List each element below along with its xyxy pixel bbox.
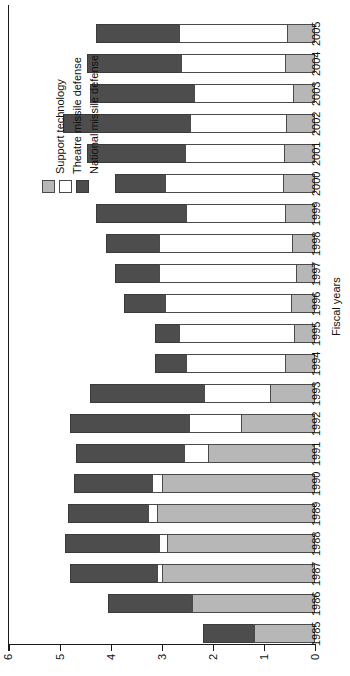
- category-axis-label: 2005: [310, 0, 322, 46]
- bar-row: [203, 624, 315, 643]
- value-axis-tick-label: 5: [54, 646, 66, 668]
- bar-row: [113, 264, 315, 283]
- bar-segment-support: [167, 534, 315, 553]
- value-axis-tick-label: 6: [2, 646, 14, 668]
- bar-row: [113, 174, 315, 193]
- bar-segment-national: [96, 24, 179, 43]
- bar-segment-theatre: [179, 24, 288, 43]
- bar-segment-national: [108, 594, 192, 613]
- bar-row: [122, 294, 315, 313]
- bar-segment-theatre: [185, 144, 285, 163]
- bar-row: [153, 354, 315, 373]
- bar-segment-theatre: [179, 324, 295, 343]
- bar-segment-theatre: [159, 264, 297, 283]
- value-axis-tick-label: 2: [207, 646, 219, 668]
- bar-segment-theatre: [186, 204, 286, 223]
- bar-segment-national: [115, 264, 160, 283]
- legend-swatch: [76, 180, 89, 193]
- bar-segment-national: [124, 294, 166, 313]
- bar-segment-national: [70, 414, 190, 433]
- bar-segment-national: [203, 624, 254, 643]
- bar-segment-national: [155, 324, 180, 343]
- bar-segment-national: [68, 504, 150, 523]
- bar-segment-support: [241, 414, 315, 433]
- bar-segment-theatre: [184, 444, 209, 463]
- value-axis-tick-label: 4: [105, 646, 117, 668]
- bar-segment-support: [162, 474, 315, 493]
- bar-segment-national: [96, 204, 187, 223]
- bar-segment-theatre: [165, 174, 284, 193]
- bar-segment-support: [208, 444, 315, 463]
- bar-row: [88, 384, 315, 403]
- bar-row: [72, 474, 315, 493]
- bar-row: [85, 144, 315, 163]
- bar-segment-support: [157, 504, 315, 523]
- bar-row: [153, 324, 315, 343]
- bar-segment-theatre: [204, 384, 271, 403]
- bar-segment-national: [115, 174, 166, 193]
- bar-segment-national: [87, 54, 182, 73]
- bar-row: [68, 564, 315, 583]
- bar-segment-theatre: [189, 414, 242, 433]
- bar-segment-theatre: [186, 354, 286, 373]
- bar-segment-support: [254, 624, 315, 643]
- bar-row: [74, 444, 315, 463]
- bar-segment-support: [162, 564, 315, 583]
- bar-row: [66, 504, 315, 523]
- bar-segment-national: [155, 354, 187, 373]
- bar-segment-national: [87, 144, 186, 163]
- bar-segment-national: [106, 234, 159, 253]
- bar-row: [68, 414, 315, 433]
- legend-swatch: [42, 180, 55, 193]
- bar-segment-theatre: [165, 294, 292, 313]
- bar-segment-support: [192, 594, 315, 613]
- bar-row: [94, 204, 315, 223]
- legend-label: National missile defense: [88, 55, 100, 174]
- legend-label: Theatre missile defense: [71, 57, 83, 174]
- bar-segment-national: [74, 474, 154, 493]
- bar-segment-national: [65, 534, 160, 553]
- bar-segment-theatre: [159, 234, 293, 253]
- bar-row: [94, 24, 315, 43]
- value-axis-tick-label: 3: [156, 646, 168, 668]
- bar-row: [85, 54, 315, 73]
- value-axis-tick-label: 0: [309, 646, 321, 668]
- bar-segment-national: [90, 84, 195, 103]
- bar-segment-national: [70, 564, 158, 583]
- chart-figure: 0123456 19851986198719881989199019911992…: [0, 0, 350, 676]
- bar-segment-theatre: [194, 84, 294, 103]
- bar-row: [63, 534, 315, 553]
- bar-row: [108, 594, 315, 613]
- legend-label: Support technology: [54, 79, 66, 174]
- bar-row: [104, 234, 315, 253]
- bar-segment-theatre: [190, 114, 287, 133]
- bar-segment-theatre: [181, 54, 286, 73]
- bar-row: [88, 84, 315, 103]
- bar-segment-support: [270, 384, 315, 403]
- legend-swatch: [59, 180, 72, 193]
- category-axis-title: Fiscal years: [330, 277, 342, 336]
- bar-segment-national: [90, 384, 205, 403]
- value-axis-tick-label: 1: [258, 646, 270, 668]
- bar-segment-national: [76, 444, 184, 463]
